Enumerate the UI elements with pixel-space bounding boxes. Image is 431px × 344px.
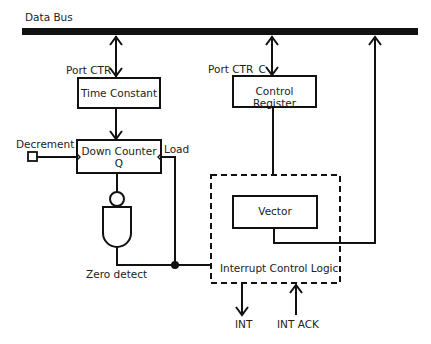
down-counter-label: Down Counter (79, 145, 159, 157)
port-ctr-c-arrow (266, 36, 278, 75)
control-register-label: Control Register (233, 85, 316, 109)
load-line (161, 157, 175, 265)
nand-gate (103, 207, 131, 247)
zero-detect-line (117, 247, 211, 265)
down-counter-q-label: Q (79, 157, 159, 169)
port-ctr-c-label: Port CTR_C (208, 63, 266, 75)
port-ctr-arrow (110, 36, 122, 77)
decrement-label: Decrement (16, 138, 74, 150)
interrupt-control-logic-label: Interrupt Control Logic (220, 262, 338, 274)
zero-detect-label: Zero detect (86, 268, 147, 280)
data-bus-label: Data Bus (25, 11, 73, 23)
vector-label: Vector (233, 205, 317, 217)
time-constant-to-counter-arrow (110, 108, 122, 139)
inversion-bubble (110, 192, 124, 206)
time-constant-label: Time Constant (78, 87, 160, 99)
int-arrow (236, 283, 248, 315)
int-label: INT (235, 318, 252, 330)
data-bus (22, 28, 418, 35)
port-ctr-label: Port CTR (66, 64, 111, 76)
diagram-canvas (0, 0, 431, 344)
int-ack-arrow (290, 285, 302, 315)
decrement-input-pin (28, 152, 37, 161)
int-ack-label: INT ACK (277, 318, 319, 330)
load-label: Load (164, 143, 189, 155)
junction-dot (171, 261, 179, 269)
